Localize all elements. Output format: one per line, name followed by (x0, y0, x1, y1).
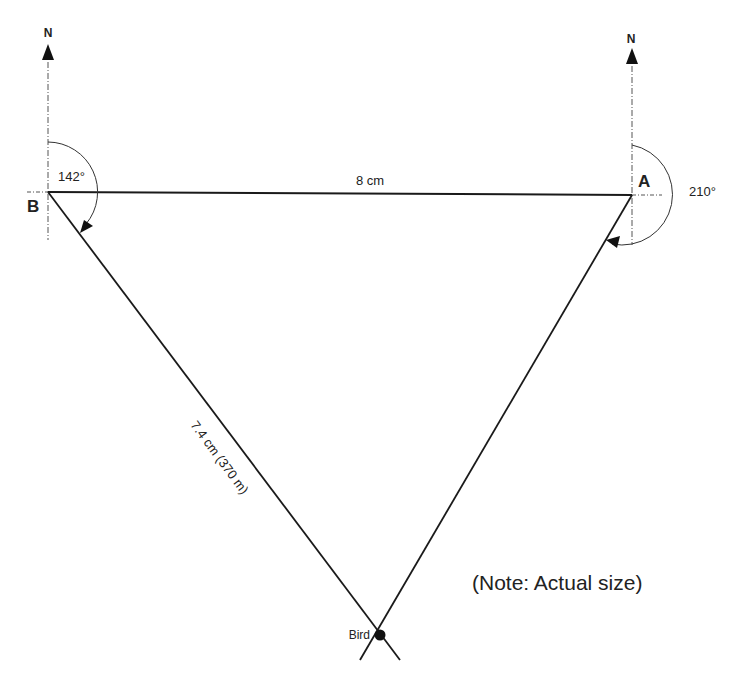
bearing-label-a: 210° (689, 184, 716, 199)
side-b-bird (48, 192, 400, 660)
bird-point (375, 630, 386, 641)
point-label-b: B (27, 197, 39, 216)
bearing-label-b: 142° (58, 169, 85, 184)
arc-arrowhead-icon (80, 220, 93, 233)
north-label-b: N (44, 26, 53, 40)
north-line-a (626, 48, 662, 245)
side-b-bird-label: 7.4 cm (370 m) (188, 418, 252, 497)
point-label-a: A (638, 172, 650, 191)
scale-note: (Note: Actual size) (472, 571, 642, 594)
north-label-a: N (627, 32, 636, 46)
north-arrow-icon (626, 48, 638, 64)
north-arrow-icon (42, 44, 54, 60)
bird-label: Bird (349, 628, 370, 642)
bearing-diagram: N N 142° B A 210° 8 cm 7.4 cm (370 m) Bi… (0, 0, 741, 680)
arc-arrowhead-icon (606, 236, 620, 248)
side-ab (48, 192, 632, 195)
side-ab-label: 8 cm (356, 173, 384, 188)
